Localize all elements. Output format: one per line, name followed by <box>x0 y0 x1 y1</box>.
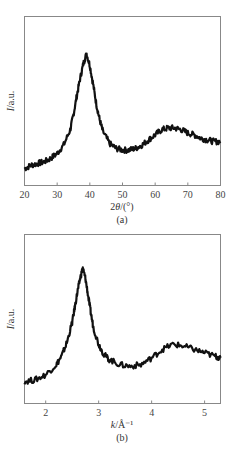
x-tick-label: 50 <box>118 189 128 200</box>
x-tick-label: 2 <box>43 407 48 418</box>
y-axis-label-b: I/a.u. <box>5 309 16 331</box>
x-tick-label: 40 <box>85 189 95 200</box>
x-tick-label: 30 <box>52 189 62 200</box>
x-tick-label: 3 <box>96 407 101 418</box>
plot-frame-b <box>25 235 221 404</box>
panel-label-a: (a) <box>116 214 127 226</box>
y-axis-label-a: I/a.u. <box>5 91 16 113</box>
x-tick-label: 80 <box>216 189 226 200</box>
panel-label-b: (b) <box>116 432 128 444</box>
x-tick-label: 70 <box>183 189 193 200</box>
x-axis-label-b: k/Å⁻¹ <box>111 419 133 430</box>
figure: 20304050607080 I/a.u. 2θ/(°) (a) 2345 I/… <box>0 0 233 456</box>
data-line-b <box>25 267 221 384</box>
x-tick-label: 5 <box>202 407 207 418</box>
x-tick-label: 20 <box>20 189 30 200</box>
x-axis-label-a: 2θ/(°) <box>110 201 133 213</box>
x-tick-label: 4 <box>149 407 154 418</box>
x-tick-label: 60 <box>150 189 160 200</box>
panel-a: 20304050607080 I/a.u. 2θ/(°) (a) <box>5 17 226 227</box>
data-line-a <box>25 54 221 171</box>
panel-b: 2345 I/a.u. k/Å⁻¹ (b) <box>5 235 221 445</box>
plot-frame-a <box>25 17 221 186</box>
